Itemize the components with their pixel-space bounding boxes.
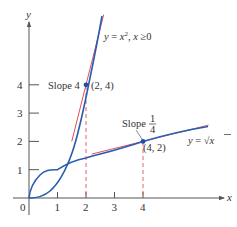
x-tick-label-1: 1 bbox=[55, 201, 61, 213]
slope-quarter-pointer bbox=[136, 130, 142, 139]
slope-fraction-numerator: 1 bbox=[150, 113, 155, 124]
point-2-4 bbox=[84, 82, 89, 87]
sqrt-label: y = √x bbox=[187, 135, 215, 146]
x-tick-label-3: 3 bbox=[112, 201, 118, 213]
parabola-label: y = x2, x ≥0 bbox=[103, 30, 152, 42]
point-4-2-label: (4, 2) bbox=[143, 142, 166, 154]
x-ticks bbox=[58, 192, 144, 198]
x-axis-label: x bbox=[226, 191, 232, 203]
slope-fraction-denominator: 4 bbox=[150, 124, 156, 135]
tangent-lines-chart: x y 0 1 2 3 4 1 2 3 4 y = x2, x ≥0 y = √… bbox=[0, 0, 237, 227]
y-ticks bbox=[29, 85, 39, 170]
y-axis-label: y bbox=[25, 8, 31, 20]
slope-quarter-word: Slope bbox=[122, 118, 146, 129]
point-2-4-label: (2, 4) bbox=[91, 80, 114, 92]
sqrt-curve bbox=[29, 127, 208, 199]
x-tick-label-2: 2 bbox=[83, 201, 89, 213]
y-tick-label-4: 4 bbox=[17, 79, 23, 91]
slope-4-label: Slope 4 bbox=[48, 80, 81, 91]
y-tick-label-2: 2 bbox=[17, 135, 23, 147]
x-tick-label-4: 4 bbox=[140, 201, 146, 213]
y-tick-label-1: 1 bbox=[17, 164, 23, 176]
y-tick-label-3: 3 bbox=[17, 107, 23, 119]
origin-label: 0 bbox=[20, 201, 26, 213]
parabola-curve bbox=[29, 16, 102, 198]
